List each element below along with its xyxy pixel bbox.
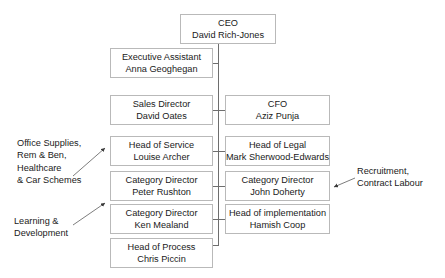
node-person: David Oates xyxy=(136,110,187,122)
annotation-recruitment: Recruitment, Contract Labour xyxy=(357,165,443,190)
node-person: David Rich-Jones xyxy=(192,29,264,41)
node-role: Category Director xyxy=(126,207,198,219)
node-role: Executive Assistant xyxy=(122,51,201,63)
node-role: Category Director xyxy=(242,174,314,186)
org-chart: CEO David Rich-Jones Executive Assistant… xyxy=(0,0,445,278)
node-category-director-peter-rushton[interactable]: Category Director Peter Rushton xyxy=(110,171,213,201)
node-head-of-service[interactable]: Head of Service Louise Archer xyxy=(110,136,213,166)
annotation-office-supplies: Office Supplies, Rem & Ben, Healthcare &… xyxy=(17,137,105,187)
node-person: Chris Piccin xyxy=(137,253,186,265)
node-role: Head of Process xyxy=(128,241,196,253)
node-role: Head of Service xyxy=(129,139,194,151)
node-role: Sales Director xyxy=(133,98,191,110)
node-category-director-john-doherty[interactable]: Category Director John Doherty xyxy=(225,171,330,201)
node-person: Ken Mealand xyxy=(134,219,188,231)
node-head-of-legal[interactable]: Head of Legal Mark Sherwood-Edwards xyxy=(225,136,330,166)
node-head-of-implementation[interactable]: Head of implementation Hamish Coop xyxy=(225,204,330,234)
node-cfo[interactable]: CFO Aziz Punja xyxy=(225,95,330,125)
node-sales-director[interactable]: Sales Director David Oates xyxy=(110,95,213,125)
node-person: Louise Archer xyxy=(133,151,189,163)
annotation-learning-development: Learning & Development xyxy=(14,215,102,240)
node-executive-assistant[interactable]: Executive Assistant Anna Geoghegan xyxy=(110,48,213,78)
node-person: Aziz Punja xyxy=(256,110,299,122)
node-person: Hamish Coop xyxy=(250,219,306,231)
node-role: CEO xyxy=(218,17,238,29)
node-person: Mark Sherwood-Edwards xyxy=(226,151,329,163)
node-person: Peter Rushton xyxy=(132,186,191,198)
node-category-director-ken-mealand[interactable]: Category Director Ken Mealand xyxy=(110,204,213,234)
node-role: Category Director xyxy=(126,174,198,186)
node-role: Head of Legal xyxy=(249,139,306,151)
node-role: CFO xyxy=(268,98,287,110)
node-role: Head of implementation xyxy=(229,207,326,219)
node-head-of-process[interactable]: Head of Process Chris Piccin xyxy=(110,238,213,268)
node-person: John Doherty xyxy=(250,186,305,198)
node-ceo[interactable]: CEO David Rich-Jones xyxy=(180,14,276,44)
node-person: Anna Geoghegan xyxy=(125,63,197,75)
